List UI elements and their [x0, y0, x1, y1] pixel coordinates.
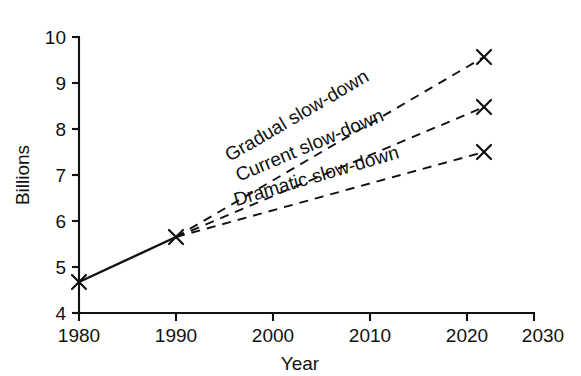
y-tick-label-10: 10: [45, 27, 66, 48]
x-tick-label-1980: 1980: [58, 325, 100, 346]
x-tick-label-2030: 2030: [522, 325, 564, 346]
population-projection-chart: 4 5 6 7 8 9 10 1980 1990 2000 2010 2020 …: [0, 0, 581, 376]
y-axis-title: Billions: [12, 145, 33, 205]
x-axis-title: Year: [281, 353, 320, 374]
x-tick-label-2020: 2020: [446, 325, 488, 346]
y-tick-label-8: 8: [55, 119, 66, 140]
y-tick-label-5: 5: [55, 257, 66, 278]
y-tick-label-4: 4: [55, 303, 66, 324]
y-tick-label-9: 9: [55, 73, 66, 94]
y-tick-label-6: 6: [55, 211, 66, 232]
x-tick-label-2000: 2000: [252, 325, 294, 346]
x-tick-label-2010: 2010: [349, 325, 391, 346]
x-tick-label-1990: 1990: [155, 325, 197, 346]
y-tick-label-7: 7: [55, 165, 66, 186]
